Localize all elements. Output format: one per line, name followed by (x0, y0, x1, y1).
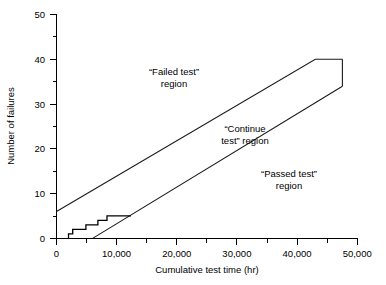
y-axis-title: Number of failures (5, 87, 16, 165)
continue-test-region-label-line1: “Continue (224, 123, 265, 134)
x-tick-label-30000: 30,000 (222, 248, 251, 259)
x-tick-label-50000: 50,000 (343, 248, 372, 259)
passed-test-region-label-line2: region (276, 180, 302, 191)
y-tick-label-40: 40 (34, 54, 45, 65)
y-tick-label-50: 50 (34, 9, 45, 20)
failed-test-region-label-line1: “Failed test” (149, 66, 199, 77)
x-axis-title: Cumulative test time (hr) (155, 264, 258, 275)
chart-container: 0 10 20 30 40 50 0 10,000 20,000 30,000 … (0, 0, 386, 285)
x-tick-label-40000: 40,000 (283, 248, 312, 259)
x-axis-minor-ticks (87, 239, 328, 243)
y-tick-label-10: 10 (34, 188, 45, 199)
failed-test-region-label-line2: region (161, 78, 187, 89)
failure-test-chart: 0 10 20 30 40 50 0 10,000 20,000 30,000 … (0, 0, 386, 285)
x-tick-label-10000: 10,000 (102, 248, 131, 259)
observed-failure-staircase (69, 216, 132, 239)
y-tick-label-20: 20 (34, 143, 45, 154)
continue-test-region-label-line2: test” region (221, 135, 269, 146)
passed-test-region-label-line1: “Passed test” (261, 168, 317, 179)
y-tick-label-0: 0 (40, 233, 45, 244)
y-axis-minor-ticks (53, 37, 57, 216)
x-tick-label-0: 0 (54, 248, 59, 259)
y-tick-label-30: 30 (34, 99, 45, 110)
x-tick-label-20000: 20,000 (162, 248, 191, 259)
